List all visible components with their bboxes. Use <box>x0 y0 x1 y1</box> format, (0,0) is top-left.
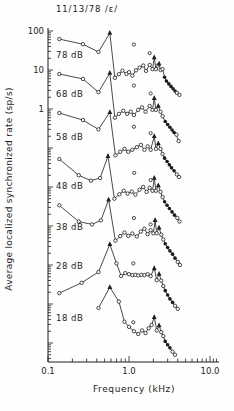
open-point-marker <box>132 330 135 333</box>
open-point-marker <box>161 152 164 155</box>
open-point-marker <box>151 67 154 70</box>
formant-peak-marker <box>157 323 162 328</box>
series-level-label: 18 dB <box>56 313 83 323</box>
open-point-marker <box>149 274 152 277</box>
open-point-marker <box>139 230 142 233</box>
filled-point-marker <box>171 252 175 256</box>
series-38-db: 38 dB <box>56 197 182 267</box>
open-point-marker <box>139 143 142 146</box>
formant-peak-marker <box>156 182 161 187</box>
x-tick-label: 10.0 <box>201 366 220 376</box>
open-point-marker <box>58 72 61 75</box>
open-point-marker <box>159 110 162 113</box>
open-point-marker <box>99 219 102 222</box>
open-point-marker <box>138 188 141 191</box>
series-line <box>99 287 176 355</box>
open-point-marker <box>173 353 176 356</box>
filled-point-marker <box>173 256 177 260</box>
series-level-label: 38 dB <box>56 222 83 232</box>
open-point-marker <box>155 278 158 281</box>
formant-peak-marker <box>157 61 162 66</box>
filled-point-marker <box>168 249 172 253</box>
open-point-marker <box>119 234 122 237</box>
formant-peak-marker <box>152 54 157 59</box>
series-line <box>59 244 178 309</box>
open-point-marker <box>130 190 133 193</box>
plot-canvas: 1001010.11.010.078 dB68 dB58 dB48 dB38 d… <box>0 0 234 411</box>
open-point-marker <box>154 108 157 111</box>
open-point-marker <box>113 197 116 200</box>
open-point-marker <box>159 190 162 193</box>
open-point-marker <box>162 334 165 337</box>
open-point-marker <box>123 231 126 234</box>
open-point-marker <box>146 145 149 148</box>
open-point-marker <box>151 189 154 192</box>
open-point-marker <box>123 320 126 323</box>
open-point-marker <box>144 69 147 72</box>
filled-point-marker <box>163 156 167 160</box>
series-line <box>59 200 180 265</box>
series-line <box>59 112 179 177</box>
filled-point-marker <box>173 213 177 217</box>
formant-peak-marker <box>107 70 112 75</box>
series-level-label: 68 dB <box>56 89 83 99</box>
open-point-marker <box>155 329 158 332</box>
detached-point-marker <box>132 216 135 219</box>
open-point-marker <box>144 110 147 113</box>
y-tick-label: 100 <box>28 26 44 36</box>
open-point-marker <box>177 139 180 142</box>
open-point-marker <box>143 148 146 151</box>
open-point-marker <box>148 186 151 189</box>
open-point-marker <box>118 193 121 196</box>
filled-point-marker <box>165 160 169 164</box>
open-point-marker <box>154 67 157 70</box>
series-level-label: 58 dB <box>56 132 83 142</box>
open-point-marker <box>132 113 135 116</box>
detached-point-marker <box>149 179 152 182</box>
open-point-marker <box>149 229 152 232</box>
series-level-label: 28 dB <box>56 261 83 271</box>
open-point-marker <box>142 64 145 67</box>
x-ticks <box>48 356 216 362</box>
open-point-marker <box>127 150 130 153</box>
open-point-marker <box>127 70 130 73</box>
filled-point-marker <box>170 210 174 214</box>
open-point-marker <box>121 69 124 72</box>
filled-point-marker <box>163 242 167 246</box>
open-point-marker <box>176 307 179 310</box>
series-level-label: 78 dB <box>56 50 83 60</box>
open-point-marker <box>81 42 84 45</box>
detached-point-marker <box>149 132 152 135</box>
open-point-marker <box>178 220 181 223</box>
open-point-marker <box>58 111 61 114</box>
open-point-marker <box>131 148 134 151</box>
filled-point-marker <box>168 346 172 350</box>
formant-peak-marker <box>157 225 162 230</box>
series-58-db: 58 dB <box>56 109 181 179</box>
filled-point-marker <box>166 293 170 297</box>
open-point-marker <box>147 326 150 329</box>
filled-point-marker <box>166 123 170 127</box>
formant-peak-marker <box>152 175 157 180</box>
formant-peak-marker <box>156 103 161 108</box>
open-point-marker <box>131 74 134 77</box>
detached-point-marker <box>132 43 135 46</box>
x-tick-label: 0.1 <box>41 366 55 376</box>
formant-peak-marker <box>107 30 112 35</box>
formant-peak-marker <box>106 197 111 202</box>
open-point-marker <box>81 118 84 121</box>
open-point-marker <box>137 108 140 111</box>
open-point-marker <box>154 189 157 192</box>
formant-peak-marker <box>107 109 112 114</box>
open-point-marker <box>58 291 61 294</box>
filled-point-marker <box>163 200 167 204</box>
filled-point-marker <box>168 163 172 167</box>
formant-peak-marker <box>107 284 112 289</box>
filled-point-marker <box>168 297 172 301</box>
open-point-marker <box>127 234 130 237</box>
open-point-marker <box>161 195 164 198</box>
open-point-marker <box>140 106 143 109</box>
y-ticks <box>48 31 53 359</box>
open-point-marker <box>134 193 137 196</box>
filled-point-marker <box>163 75 167 79</box>
